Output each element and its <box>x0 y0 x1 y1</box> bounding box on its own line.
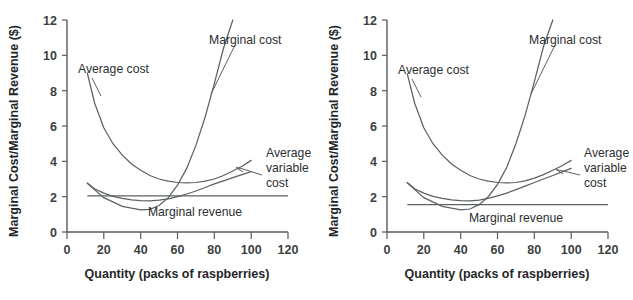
avc-leader-right <box>563 171 580 175</box>
marginal-revenue-label-right: Marginal revenue <box>469 211 563 225</box>
average-cost-leader-left <box>92 78 101 96</box>
average-cost-polyline-left <box>87 73 251 183</box>
right-chart-svg: Marginal Cost/Marginal Revenue ($) 0 2 4… <box>316 0 633 300</box>
marginal-cost-polyline-left <box>87 20 233 210</box>
marginal-cost-label-right: Marginal cost <box>529 33 602 47</box>
x-tick-label: 120 <box>278 243 299 257</box>
marginal-cost-leader-right <box>531 45 555 94</box>
y-tick-label: 2 <box>50 191 57 205</box>
average-cost-leader-right <box>412 79 421 97</box>
x-tick-label: 20 <box>97 243 111 257</box>
two-panel-cost-curve-figure: Marginal Cost/Marginal Revenue ($) 0 2 4… <box>0 0 633 300</box>
x-tick-label: 20 <box>417 243 431 257</box>
x-tick-label: 100 <box>241 243 262 257</box>
y-tick-label: 0 <box>50 226 57 240</box>
x-tick-label: 60 <box>171 243 185 257</box>
x-tick-label: 40 <box>134 243 148 257</box>
y-ticks-right <box>382 20 387 232</box>
x-tick-label: 100 <box>561 243 582 257</box>
x-tick-label: 120 <box>598 243 619 257</box>
y-tick-label: 4 <box>50 155 57 169</box>
x-tick-label: 40 <box>454 243 468 257</box>
avc-label-line2-left: variable <box>266 161 309 175</box>
marginal-revenue-label-left: Marginal revenue <box>148 205 242 219</box>
x-ticks-left <box>67 232 288 239</box>
avc-label-line3-right: cost <box>584 176 607 190</box>
left-chart-svg: Marginal Cost/Marginal Revenue ($) 0 2 4… <box>0 0 316 300</box>
y-tick-label: 12 <box>363 14 377 28</box>
avc-label-line1-right: Average <box>584 146 629 160</box>
avc-leader-left <box>243 169 262 175</box>
marginal-cost-label-left: Marginal cost <box>209 33 282 47</box>
avc-label-line3-left: cost <box>266 176 289 190</box>
x-ticks-right <box>387 232 608 239</box>
y-tick-label: 8 <box>50 85 57 99</box>
x-axis-title-left: Quantity (packs of raspberries) <box>85 267 270 281</box>
y-axis-title-right: Marginal Cost/Marginal Revenue ($) <box>327 25 341 237</box>
x-tick-label: 0 <box>64 243 71 257</box>
y-tick-label: 6 <box>370 120 377 134</box>
y-tick-label: 12 <box>43 14 57 28</box>
x-tick-label: 0 <box>384 243 391 257</box>
x-tick-label: 80 <box>527 243 541 257</box>
y-ticks-left <box>62 20 67 232</box>
x-axis-title-right: Quantity (packs of raspberries) <box>405 267 590 281</box>
x-tick-label: 80 <box>207 243 221 257</box>
y-tick-label: 8 <box>370 85 377 99</box>
y-tick-label: 0 <box>370 226 377 240</box>
average-cost-label-right: Average cost <box>398 63 470 77</box>
x-tick-labels-right: 0 20 40 60 80 100 120 <box>384 243 619 257</box>
x-tick-labels-left: 0 20 40 60 80 100 120 <box>64 243 299 257</box>
y-tick-label: 2 <box>370 191 377 205</box>
avc-arrowhead-left <box>236 168 243 173</box>
y-tick-label: 10 <box>43 49 57 63</box>
avc-label-line2-right: variable <box>584 161 627 175</box>
x-tick-label: 60 <box>491 243 505 257</box>
y-axis-title-left: Marginal Cost/Marginal Revenue ($) <box>7 25 21 237</box>
y-tick-label: 6 <box>50 120 57 134</box>
cost-revenue-chart-left: Marginal Cost/Marginal Revenue ($) 0 2 4… <box>0 0 316 300</box>
average-cost-label-left: Average cost <box>78 62 150 76</box>
avc-label-line1-left: Average <box>266 146 311 160</box>
y-tick-labels-left: 0 2 4 6 8 10 12 <box>43 14 57 240</box>
cost-revenue-chart-right: Marginal Cost/Marginal Revenue ($) 0 2 4… <box>316 0 633 300</box>
average-cost-polyline-right <box>407 74 571 183</box>
y-tick-labels-right: 0 2 4 6 8 10 12 <box>363 14 377 240</box>
y-tick-label: 4 <box>370 155 377 169</box>
y-tick-label: 10 <box>363 49 377 63</box>
marginal-cost-polyline-right <box>407 20 553 210</box>
